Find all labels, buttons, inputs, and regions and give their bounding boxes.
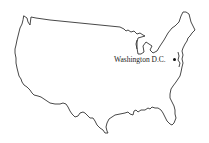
us-map: Washington D.C. [0, 0, 209, 143]
us-border-outline [15, 12, 195, 133]
washington-dc-label: Washington D.C. [114, 56, 166, 64]
washington-dc-marker-icon [173, 58, 176, 61]
us-outline-map [0, 0, 209, 143]
